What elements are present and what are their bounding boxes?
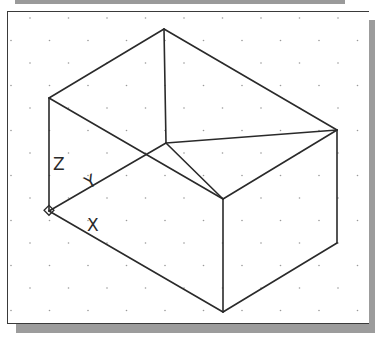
box-edge [164,29,166,143]
grid-dot [126,130,128,132]
grid-dot [260,107,262,109]
grid-dot [260,152,262,154]
grid-dot [68,242,70,244]
grid-dot [29,17,31,19]
grid-dot [145,242,147,244]
grid-dot [164,175,166,177]
grid-dot [203,220,205,222]
grid-dot [260,17,262,19]
grid-dot [126,85,128,87]
grid-dot [222,152,224,154]
isometric-box-wireframe [49,29,337,312]
grid-dot [280,310,282,312]
grid-dot [299,62,301,64]
grid-dot [87,85,89,87]
grid-dot [126,175,128,177]
grid-dot [145,287,147,289]
grid-dot [126,310,128,312]
grid-dot [337,62,339,64]
grid-dot [126,40,128,42]
grid-dot [183,242,185,244]
grid-dot [10,85,12,87]
grid-dot [203,310,205,312]
grid-dot [106,287,108,289]
grid-dot [241,85,243,87]
grid-dot [29,152,31,154]
grid-dot [337,287,339,289]
grid-dot [106,17,108,19]
grid-dot [29,107,31,109]
grid-dot [49,310,51,312]
grid-dot [164,310,166,312]
grid-dot [145,62,147,64]
grid-dot [299,17,301,19]
ucs-y-label: Y [80,170,100,193]
grid-dot [260,62,262,64]
ucs-z-label: Z [53,154,65,174]
grid-dot [68,62,70,64]
grid-dot [10,130,12,132]
grid-dot [126,265,128,267]
box-edge [223,130,337,199]
grid-dot [357,85,359,87]
grid-dot [318,220,320,222]
grid-dot [280,175,282,177]
grid-dot [49,40,51,42]
box-edge [49,211,223,312]
grid-dot [337,17,339,19]
grid-dot [241,130,243,132]
grid-dot [318,40,320,42]
grid-dot [164,265,166,267]
ucs-x-label: X [87,215,99,235]
grid-dot [337,107,339,109]
grid-dot [106,107,108,109]
grid-dot [241,220,243,222]
grid-dot [318,265,320,267]
box-edge [166,130,337,143]
grid-dot [280,220,282,222]
grid-dot [241,265,243,267]
grid-dot [29,287,31,289]
grid-dot [241,310,243,312]
grid-dot [87,310,89,312]
grid-dot [183,62,185,64]
grid-dot [10,40,12,42]
ucs-icon: Z Y X [44,154,100,235]
grid-dot [222,17,224,19]
grid-dot [357,40,359,42]
grid-dot [299,197,301,199]
grid-dot [183,152,185,154]
grid-dot [68,152,70,154]
grid-dot [203,40,205,42]
grid-dot [280,40,282,42]
grid-dot [10,220,12,222]
grid-dot [106,152,108,154]
grid-dot [145,197,147,199]
grid-dot [183,17,185,19]
grid-dot [241,40,243,42]
grid-dot [145,107,147,109]
grid-dot [29,197,31,199]
grid-dot [203,130,205,132]
grid-dot [49,220,51,222]
grid-dot [183,107,185,109]
grid-dot [68,287,70,289]
grid-dot [29,62,31,64]
grid-dot [241,175,243,177]
grid-dot [145,17,147,19]
grid-dot [318,310,320,312]
grid-dot [68,17,70,19]
grid-dot [357,220,359,222]
grid-dot [87,40,89,42]
grid-dot [106,197,108,199]
grid-dot [203,265,205,267]
box-edge [49,29,164,98]
grid-dot [126,220,128,222]
drawing-canvas[interactable]: Z Y X [0,0,375,346]
grid-dot [260,242,262,244]
grid-dot [49,85,51,87]
grid-dot [164,220,166,222]
grid-dot [280,265,282,267]
box-edge [223,243,337,312]
grid-dot [260,197,262,199]
